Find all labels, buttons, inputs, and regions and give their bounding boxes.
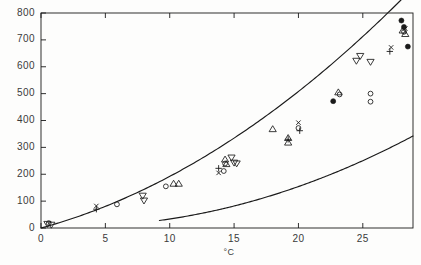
x-tick-label: 10	[150, 233, 190, 244]
x-tick-label: 5	[85, 233, 125, 244]
y-tick-label: 600	[17, 60, 35, 71]
y-tick-label: 400	[17, 114, 35, 125]
curve-lower-curve	[159, 136, 413, 220]
marker-triangle-down	[140, 198, 147, 204]
plot-frame	[41, 13, 413, 228]
marker-triangle-down	[353, 58, 360, 64]
marker-triangle-up	[335, 89, 342, 95]
series-up-triangle	[170, 27, 409, 186]
marker-circle-open	[221, 169, 226, 174]
series-down-triangle	[44, 53, 374, 228]
x-axis-title: °C	[209, 247, 249, 257]
y-tick-label: 500	[17, 87, 35, 98]
figure-container: 0100200300400500600700800 0510152025 °C	[0, 0, 421, 265]
marker-circle-filled	[331, 99, 336, 104]
data-markers	[44, 18, 411, 228]
fitted-curves	[41, 0, 413, 228]
y-tick-label: 0	[29, 222, 35, 233]
marker-circle-open	[368, 99, 373, 104]
x-tick-label: 25	[343, 233, 383, 244]
y-tick-label: 100	[17, 195, 35, 206]
marker-circle-filled	[401, 24, 406, 29]
y-tick-label: 800	[17, 7, 35, 18]
marker-circle-filled	[405, 44, 410, 49]
series-open-circle	[46, 29, 406, 225]
marker-triangle-up	[269, 126, 276, 132]
axis-frame	[41, 13, 413, 228]
marker-circle-open	[115, 202, 120, 207]
marker-circle-open	[163, 184, 168, 189]
curve-upper-fitted-curve	[41, 0, 407, 228]
x-tick-label: 20	[278, 233, 318, 244]
marker-circle-filled	[399, 18, 404, 23]
plot-area	[0, 0, 421, 265]
series-plus	[93, 48, 393, 212]
y-tick-label: 300	[17, 141, 35, 152]
marker-circle-open	[368, 91, 373, 96]
y-tick-label: 200	[17, 168, 35, 179]
x-tick-label: 0	[21, 233, 61, 244]
axis-ticks	[41, 13, 363, 228]
marker-triangle-down	[367, 59, 374, 65]
x-tick-label: 15	[214, 233, 254, 244]
y-tick-label: 700	[17, 33, 35, 44]
